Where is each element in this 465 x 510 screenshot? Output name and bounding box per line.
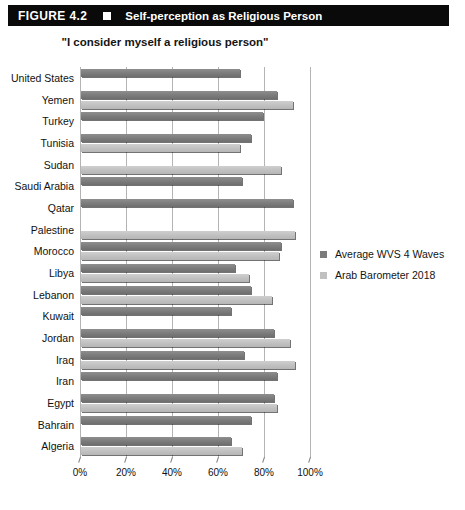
legend-swatch-icon — [320, 251, 327, 258]
bar-wvs — [81, 351, 244, 359]
category-label: Kuwait — [42, 310, 74, 322]
white-square-icon — [103, 12, 111, 20]
category-label: Turkey — [42, 115, 74, 127]
legend-swatch-icon — [320, 272, 327, 279]
category-label: Iran — [56, 375, 74, 387]
x-axis: 0%20%40%60%80%100% — [80, 457, 310, 487]
bar-arab-barometer — [81, 339, 290, 347]
bar-rows: United StatesYemenTurkeyTunisiaSudanSaud… — [80, 67, 310, 457]
bar-wvs — [81, 394, 274, 402]
bar-wvs — [81, 372, 277, 380]
legend-label: Arab Barometer 2018 — [335, 269, 435, 281]
chart-legend: Average WVS 4 WavesArab Barometer 2018 — [320, 248, 460, 290]
x-tick — [216, 457, 219, 463]
chart-subtitle: "I consider myself a religious person" — [0, 36, 330, 48]
axis-area: United StatesYemenTurkeyTunisiaSudanSaud… — [80, 67, 310, 457]
category-label: Bahrain — [38, 419, 74, 431]
bar-arab-barometer — [81, 252, 279, 260]
x-tick — [78, 457, 81, 463]
category-label: Libya — [49, 267, 74, 279]
bar-arab-barometer — [81, 101, 293, 109]
category-label: Tunisia — [41, 137, 74, 149]
category-label: Jordan — [42, 332, 74, 344]
bar-wvs — [81, 69, 240, 77]
bar-wvs — [81, 286, 251, 294]
category-label: Egypt — [47, 397, 74, 409]
bar-wvs — [81, 329, 274, 337]
bar-arab-barometer — [81, 361, 295, 369]
bar-arab-barometer — [81, 144, 240, 152]
figure-number: FIGURE 4.2 — [18, 9, 87, 23]
bar-wvs — [81, 134, 251, 142]
category-label: Palestine — [31, 224, 74, 236]
figure-title: Self-perception as Religious Person — [125, 10, 322, 22]
x-tick-label: 80% — [254, 467, 274, 478]
x-tick — [262, 457, 265, 463]
category-label: United States — [11, 72, 74, 84]
bar-arab-barometer — [81, 274, 249, 282]
bar-wvs — [81, 199, 293, 207]
bar-wvs — [81, 177, 242, 185]
x-tick-label: 20% — [116, 467, 136, 478]
legend-label: Average WVS 4 Waves — [335, 248, 444, 260]
category-label: Saudi Arabia — [14, 180, 74, 192]
x-tick-label: 40% — [162, 467, 182, 478]
bar-arab-barometer — [81, 404, 277, 412]
x-tick — [124, 457, 127, 463]
legend-item: Average WVS 4 Waves — [320, 248, 460, 260]
x-tick — [170, 457, 173, 463]
bar-wvs — [81, 437, 231, 445]
x-tick-label: 60% — [208, 467, 228, 478]
bar-wvs — [81, 307, 231, 315]
category-label: Lebanon — [33, 289, 74, 301]
legend-item: Arab Barometer 2018 — [320, 269, 460, 281]
bar-wvs — [81, 416, 251, 424]
category-label: Algeria — [41, 440, 74, 452]
gridline-100 — [310, 67, 311, 457]
figure-header-bar: FIGURE 4.2 Self-perception as Religious … — [8, 5, 449, 26]
category-label: Qatar — [48, 202, 74, 214]
category-label: Yemen — [42, 94, 74, 106]
category-label: Sudan — [44, 159, 74, 171]
bar-arab-barometer — [81, 166, 281, 174]
bar-wvs — [81, 242, 281, 250]
bar-arab-barometer — [81, 447, 242, 455]
category-label: Morocco — [34, 245, 74, 257]
bar-arab-barometer — [81, 231, 295, 239]
x-tick-label: 0% — [73, 467, 87, 478]
bar-wvs — [81, 91, 277, 99]
category-label: Iraq — [56, 354, 74, 366]
x-tick-label: 100% — [297, 467, 323, 478]
x-tick — [308, 457, 311, 463]
bar-arab-barometer — [81, 296, 272, 304]
bar-wvs — [81, 264, 235, 272]
bar-wvs — [81, 112, 263, 120]
